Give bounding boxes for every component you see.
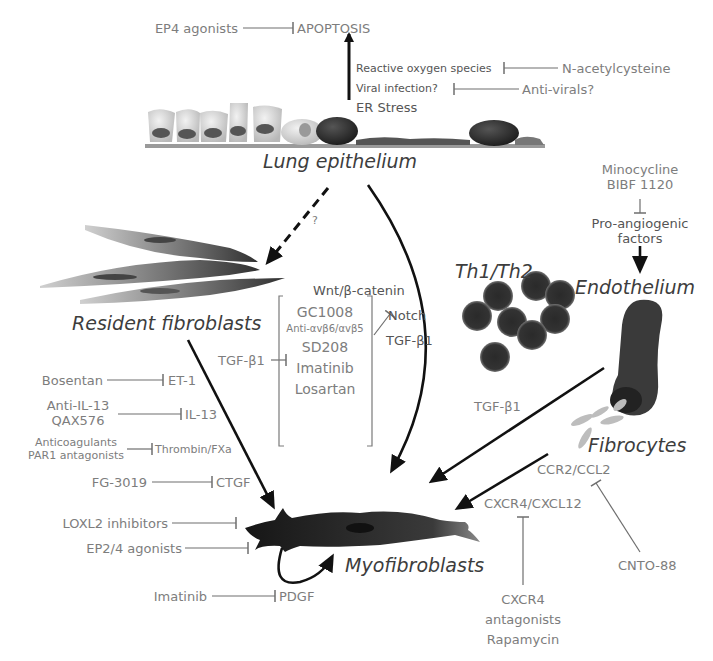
cxcr4-inhibitors: CXCR4 antagonists Rapamycin (485, 590, 561, 650)
endothelium-graphic (610, 300, 662, 416)
ccr2-ccl2-label: CCR2/CCL2 (537, 462, 611, 477)
er-stress-label: ER Stress (356, 100, 417, 115)
ctgf-label: CTGF (216, 475, 251, 490)
losartan-label: Losartan (286, 379, 363, 400)
wnt-beta-catenin-label: Wnt/β-catenin (313, 283, 405, 298)
notch-label: Notch (388, 308, 426, 323)
loxl2-inhibitors-label: LOXL2 inhibitors (63, 516, 168, 531)
pro-angiogenic-factors-label: Pro-angiogenic factors (592, 216, 689, 246)
imatinib-tgf-label: Imatinib (286, 358, 363, 379)
apoptosis-label: APOPTOSIS (297, 21, 370, 36)
cnto-88-label: CNTO-88 (618, 558, 677, 573)
anti-virals-label: Anti-virals? (522, 82, 594, 97)
angiogenesis-inhibitors: Minocycline BIBF 1120 (602, 162, 678, 192)
endothelium-label: Endothelium (575, 276, 695, 298)
epithelial-tgf-beta1-label: TGF-β1 (386, 333, 433, 348)
ep2-4-agonists-label: EP2/4 agonists (86, 541, 182, 556)
ros-label: Reactive oxygen species (356, 62, 492, 75)
tgf-inhibitor-list: GC1008 Anti-αvβ6/αvβ5 SD208 Imatinib Los… (286, 303, 363, 400)
lung-epithelium-label: Lung epithelium (263, 150, 417, 172)
myofibroblasts-label: Myofibroblasts (345, 554, 484, 576)
anti-avb6-label: Anti-αvβ6/αvβ5 (286, 321, 363, 337)
lung-epithelium-graphic (145, 103, 545, 148)
et-1-label: ET-1 (168, 373, 196, 388)
n-acetylcysteine-label: N-acetylcysteine (562, 61, 671, 76)
thrombin-inhibitors: Anticoagulants PAR1 antagonists (28, 436, 124, 462)
resident-fibroblasts-label: Resident fibroblasts (72, 312, 261, 334)
cxcr4-cxcl12-label: CXCR4/CXCL12 (484, 496, 582, 511)
imatinib-pdgf-label: Imatinib (154, 589, 207, 604)
resident-fibroblasts-graphic (40, 225, 285, 304)
fibrosis-pathway-diagram: EP4 agonists APOPTOSIS Reactive oxygen s… (0, 0, 713, 661)
bosentan-label: Bosentan (42, 373, 103, 388)
myofibroblasts-graphic (245, 508, 480, 552)
thrombin-fxa-label: Thrombin/FXa (155, 443, 232, 456)
il-13-label: IL-13 (185, 407, 217, 422)
ep4-agonists-label: EP4 agonists (155, 21, 238, 36)
th1-th2-label: Th1/Th2 (455, 260, 533, 282)
il-13-inhibitors: Anti-IL-13 QAX576 (47, 398, 110, 428)
endothelium-tgf-beta1-label: TGF-β1 (474, 399, 521, 414)
viral-infection-label: Viral infection? (356, 82, 438, 95)
fibrocytes-label: Fibrocytes (588, 434, 686, 456)
th-cells-graphic (462, 271, 575, 372)
pdgf-label: PDGF (279, 589, 314, 604)
minocycline-label: Minocycline (602, 162, 678, 177)
tgf-beta1-target-label: TGF-β1 (218, 353, 265, 368)
sd208-label: SD208 (286, 337, 363, 358)
bibf-1120-label: BIBF 1120 (602, 177, 678, 192)
gc1008-label: GC1008 (286, 303, 363, 321)
fg-3019-label: FG-3019 (92, 475, 147, 490)
unknown-pathway-label: ? (312, 214, 318, 227)
